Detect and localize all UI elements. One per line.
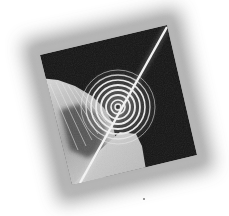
speck (143, 198, 145, 200)
abstract-artwork (0, 0, 229, 216)
